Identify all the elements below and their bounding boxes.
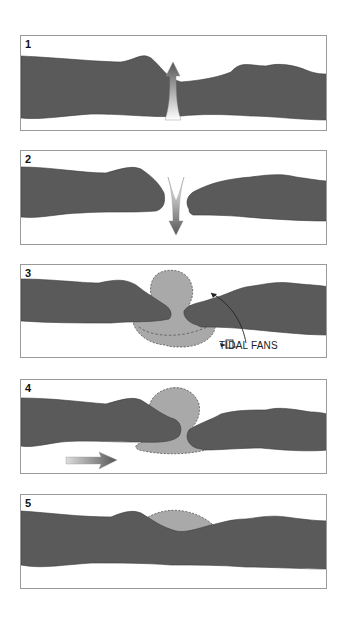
- panel-4: 4: [20, 379, 327, 474]
- panel-5: 5: [20, 494, 327, 589]
- barrier-island-right: [187, 175, 327, 221]
- barrier-island-left: [21, 167, 165, 217]
- down-arrow: [168, 177, 184, 235]
- panel-number: 2: [25, 153, 31, 165]
- panel-3: 3 TIDAL FANS: [20, 264, 327, 358]
- barrier-island-stage-3: [21, 265, 327, 358]
- right-arrow: [66, 452, 117, 469]
- panel-2: 2: [20, 150, 327, 245]
- barrier-island-stage-5: [21, 495, 327, 589]
- barrier-island-right: [187, 408, 327, 451]
- barrier-island-stage-2: [21, 151, 327, 245]
- panel-number: 3: [25, 267, 31, 279]
- panel-number: 1: [25, 38, 31, 50]
- panel-1: 1: [20, 35, 327, 131]
- panel-number: 4: [25, 382, 31, 394]
- barrier-island-right: [184, 282, 327, 335]
- barrier-island-stage-1: [21, 36, 327, 131]
- tidal-fans-label: TIDAL FANS: [219, 340, 278, 351]
- barrier-island-left: [21, 279, 171, 323]
- barrier-island-stage-4: [21, 380, 327, 474]
- panel-number: 5: [25, 497, 31, 509]
